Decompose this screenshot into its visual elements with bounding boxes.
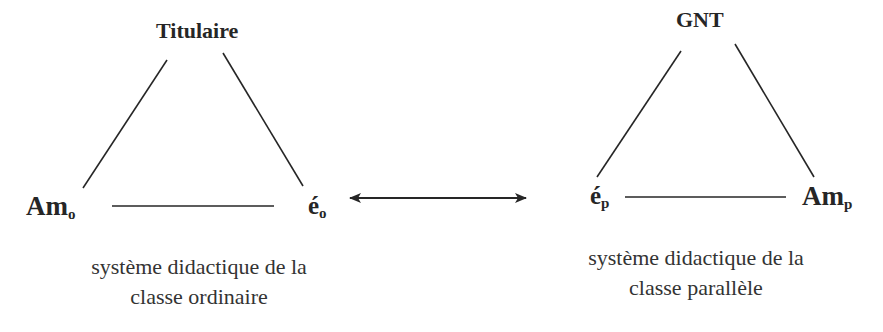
left-triangle-edge-titulaire-am [83, 60, 167, 188]
caption-right-line1: système didactique de la [555, 243, 837, 273]
node-am-o-base: Am [26, 191, 68, 221]
right-triangle-edge-gnt-e [597, 51, 681, 177]
right-triangle-edge-gnt-am [735, 44, 814, 177]
node-e-p-base: é [590, 182, 601, 209]
caption-left: système didactique de la classe ordinair… [58, 252, 340, 312]
node-e-o-base: é [308, 192, 319, 219]
node-am-p-subscript: p [844, 196, 852, 212]
caption-right-line2: classe parallèle [555, 273, 837, 303]
caption-left-line1: système didactique de la [58, 252, 340, 282]
node-e-p: ép [590, 183, 609, 208]
caption-left-line2: classe ordinaire [58, 282, 340, 312]
node-gnt: GNT [676, 9, 724, 31]
node-am-p-base: Am [802, 181, 844, 211]
node-e-p-subscript: p [601, 195, 609, 211]
caption-right: système didactique de la classe parallèl… [555, 243, 837, 303]
node-titulaire: Titulaire [156, 20, 238, 42]
left-triangle-edge-titulaire-e [223, 53, 303, 186]
node-am-o-subscript: o [68, 206, 76, 222]
node-am-p: Amp [802, 183, 852, 210]
node-e-o-subscript: o [319, 205, 327, 221]
node-e-o: éo [308, 193, 327, 218]
node-am-o: Amo [26, 193, 76, 220]
